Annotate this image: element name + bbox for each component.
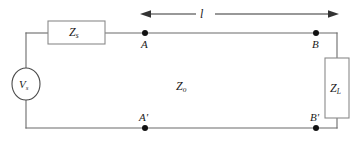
length-dimension-arrow: [140, 10, 339, 18]
source-impedance-label: Zs: [69, 26, 79, 38]
node-dots: [142, 30, 319, 131]
node-label-a: A: [141, 39, 148, 50]
line-impedance-base: Z: [176, 79, 183, 93]
line-impedance-label: Zo: [176, 80, 186, 92]
load-impedance-label: ZL: [330, 82, 341, 94]
source-impedance-base: Z: [69, 25, 76, 39]
arrowhead-left: [140, 10, 151, 18]
voltage-source-base: V: [19, 78, 26, 90]
source-impedance-subscript: s: [76, 31, 79, 40]
node-label-a-prime: A': [139, 112, 148, 123]
voltage-source-label: Vs: [19, 79, 28, 90]
circuit-schematic-canvas: [0, 0, 359, 146]
transmission-line-circuit-diagram: l Zs Vs Zo ZL A B A' B': [0, 0, 359, 146]
length-label: l: [200, 8, 203, 20]
voltage-source-subscript: s: [26, 84, 29, 91]
node-label-b: B: [312, 39, 319, 50]
node-dot-b-prime: [313, 125, 319, 131]
load-impedance-subscript: L: [337, 87, 341, 96]
arrowhead-right: [328, 10, 339, 18]
load-impedance-base: Z: [330, 81, 337, 95]
node-dot-b: [313, 30, 319, 36]
node-dot-a: [142, 30, 148, 36]
node-dot-a-prime: [142, 125, 148, 131]
node-label-b-prime: B': [310, 112, 319, 123]
line-impedance-subscript: o: [183, 85, 187, 94]
